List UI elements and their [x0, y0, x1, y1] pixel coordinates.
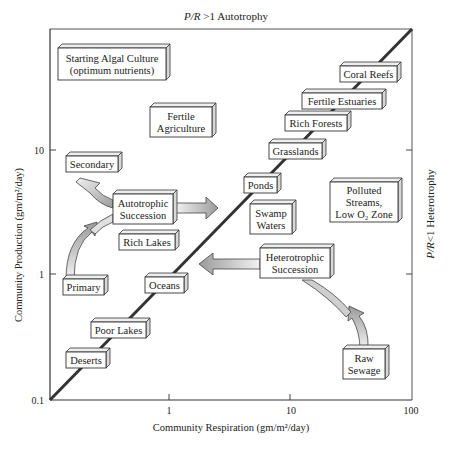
box-label: Polluted: [346, 185, 382, 196]
box-label: Autotrophic: [118, 198, 169, 209]
arrow-heterotrophic-left: [199, 253, 260, 275]
box-label: Ponds: [248, 180, 274, 191]
box-autotrophic-succession: AutotrophicSuccession: [113, 190, 177, 224]
box-label: Agriculture: [157, 123, 206, 134]
box-grasslands: Grasslands: [269, 139, 326, 159]
box-deserts: Deserts: [66, 348, 110, 368]
box-label: Grasslands: [272, 146, 318, 157]
box-label: Fertile: [167, 111, 195, 122]
box-label: Deserts: [70, 355, 102, 366]
y-tick-1: 1: [39, 269, 44, 280]
box-label: Rich Lakes: [123, 237, 171, 248]
box-label: Fertile Estuaries: [308, 96, 377, 107]
box-starting-algal-culture: Starting Algal Culture(optimum nutrients…: [58, 44, 170, 80]
y-tick-10: 10: [34, 145, 44, 156]
succession-diagram: P/R >1 Autotrophy P/R<1 Heterotrophy 10 …: [0, 0, 452, 451]
box-label: Poor Lakes: [95, 325, 143, 336]
box-heterotrophic-succession: HeterotrophicSuccession: [260, 244, 334, 278]
x-axis-title: Community Respiration (gm/m²/day): [153, 422, 310, 434]
box-primary: Primary: [63, 275, 108, 295]
box-label: Streams,: [346, 197, 382, 208]
box-oceans: Oceans: [145, 273, 188, 293]
box-secondary: Secondary: [66, 152, 122, 172]
label-boxes: Starting Algal Culture(optimum nutrients…: [58, 44, 402, 379]
box-rich-forests: Rich Forests: [285, 111, 351, 131]
box-fertile-estuaries: Fertile Estuaries: [302, 89, 386, 109]
box-label: Secondary: [70, 159, 115, 170]
box-label: Swamp: [255, 208, 287, 219]
box-label: Succession: [272, 264, 319, 275]
box-label: Oceans: [149, 280, 180, 291]
box-label: Starting Algal Culture: [66, 53, 159, 64]
y-tick-0.1: 0.1: [32, 395, 45, 406]
box-label: Coral Reefs: [344, 69, 394, 80]
right-title: P/R<1 Heterotrophy: [424, 169, 436, 260]
arrow-secondary-to-autotrophic: [76, 178, 113, 208]
box-polluted-streams: PollutedStreams,Low O₂ Zone: [330, 178, 402, 222]
box-label: Succession: [120, 210, 167, 221]
box-label: Sewage: [348, 365, 381, 376]
top-title: P/R >1 Autotrophy: [183, 10, 268, 22]
box-raw-sewage: RawSewage: [343, 345, 389, 379]
box-label: (optimum nutrients): [70, 65, 155, 77]
box-ponds: Ponds: [244, 173, 281, 193]
x-tick-1: 1: [167, 405, 172, 416]
arrow-autotrophic-right: [176, 197, 218, 219]
box-swamp-waters: SwampWaters: [250, 200, 296, 234]
box-poor-lakes: Poor Lakes: [91, 318, 150, 338]
x-tick-10: 10: [286, 405, 296, 416]
box-label: Waters: [257, 220, 286, 231]
box-label: Low O₂ Zone: [335, 209, 393, 220]
x-tick-100: 100: [404, 405, 419, 416]
box-label: Raw: [354, 353, 374, 364]
box-rich-lakes: Rich Lakes: [119, 230, 179, 250]
y-axis-title: Community Production (gm/m²/day): [13, 167, 25, 322]
box-label: Heterotrophic: [266, 252, 325, 263]
box-label: Primary: [67, 282, 102, 293]
arrow-sewage-body: [302, 280, 351, 317]
box-label: Rich Forests: [290, 118, 343, 129]
box-fertile-agriculture: FertileAgriculture: [150, 103, 216, 137]
box-coral-reefs: Coral Reefs: [340, 62, 401, 82]
